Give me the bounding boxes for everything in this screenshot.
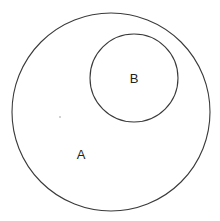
set-a-label: A	[77, 147, 86, 162]
set-b-label: B	[130, 71, 139, 86]
venn-diagram: A B	[0, 0, 220, 221]
set-a-circle	[12, 13, 210, 211]
stray-dot	[59, 116, 61, 118]
